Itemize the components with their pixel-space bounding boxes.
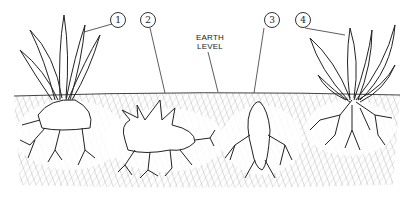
callout-2: 2 (140, 12, 156, 28)
earth-level-line2: LEVEL (190, 42, 230, 51)
earth-level-label: EARTH LEVEL (190, 33, 230, 51)
callout-4: 4 (295, 12, 311, 28)
plant-roots-illustration (0, 0, 413, 203)
earth-level-line1: EARTH (190, 33, 230, 42)
callout-3: 3 (264, 12, 280, 28)
callout-1: 1 (110, 12, 126, 28)
